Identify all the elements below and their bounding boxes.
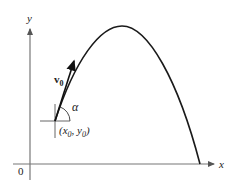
launch-point-label: (x0, y0) bbox=[59, 124, 90, 139]
projectile-diagram: y x 0 v0 α (x0, y0) bbox=[0, 0, 236, 193]
velocity-label: v0 bbox=[54, 73, 64, 88]
origin-label: 0 bbox=[18, 165, 24, 177]
x-axis-label: x bbox=[218, 158, 224, 170]
angle-arc bbox=[60, 107, 70, 121]
angle-label: α bbox=[72, 100, 79, 114]
y-axis-label: y bbox=[26, 12, 32, 24]
trajectory-curve bbox=[55, 26, 200, 164]
